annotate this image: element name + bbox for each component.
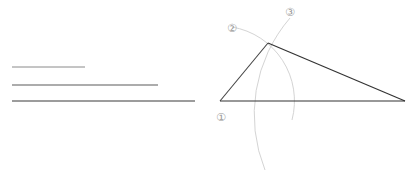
construction-arc-2 [232,27,294,120]
construction-diagram: ① ② ③ [0,0,414,175]
step-label-2: ② [227,22,237,35]
step-label-3: ③ [285,6,295,19]
construction-arc-3 [254,18,290,170]
step-label-1: ① [216,111,226,124]
